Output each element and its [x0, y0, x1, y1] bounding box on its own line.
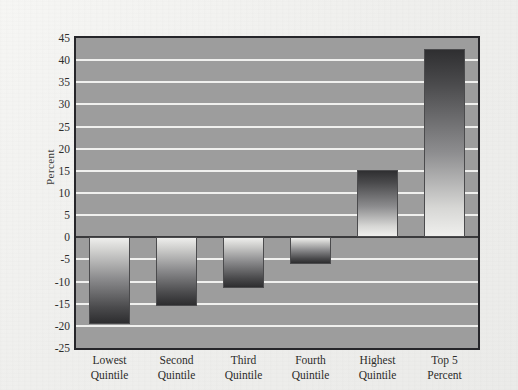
- x-tick-label-line: Percent: [411, 368, 478, 383]
- x-tick-label-line: Quintile: [76, 368, 143, 383]
- y-tick-label: 35: [42, 76, 70, 88]
- x-tick-label: LowestQuintile: [76, 353, 143, 383]
- bar: [223, 237, 263, 288]
- y-tick-label: -10: [42, 276, 70, 288]
- y-tick-label: 45: [42, 32, 70, 44]
- figure-root: Percent 454035302520151050-5-10-15-20-25…: [0, 0, 518, 390]
- bar: [89, 237, 129, 323]
- plot-area: [74, 36, 480, 350]
- x-tick-label: Top 5Percent: [411, 353, 478, 383]
- bar-series: [76, 38, 478, 348]
- x-tick-label: FourthQuintile: [277, 353, 344, 383]
- x-tick-label-line: Quintile: [143, 368, 210, 383]
- y-tick-label: 20: [42, 143, 70, 155]
- x-tick-label-line: Top 5: [411, 353, 478, 368]
- x-tick-label-line: Quintile: [277, 368, 344, 383]
- y-tick-label: -15: [42, 298, 70, 310]
- x-axis-category-labels: LowestQuintileSecondQuintileThirdQuintil…: [74, 353, 480, 389]
- x-tick-label: SecondQuintile: [143, 353, 210, 383]
- bar: [290, 237, 330, 264]
- x-tick-label-line: Lowest: [76, 353, 143, 368]
- x-tick-label: HighestQuintile: [344, 353, 411, 383]
- y-tick-label: -20: [42, 320, 70, 332]
- y-tick-label: 5: [42, 209, 70, 221]
- y-tick-label: 40: [42, 54, 70, 66]
- bar: [156, 237, 196, 306]
- bar: [357, 170, 397, 238]
- x-tick-label-line: Fourth: [277, 353, 344, 368]
- y-tick-label: -5: [42, 253, 70, 265]
- y-tick-label: 0: [42, 231, 70, 243]
- y-tick-label: 15: [42, 165, 70, 177]
- x-tick-label-line: Third: [210, 353, 277, 368]
- x-tick-label-line: Quintile: [210, 368, 277, 383]
- x-tick-label-line: Quintile: [344, 368, 411, 383]
- y-tick-label: 10: [42, 187, 70, 199]
- x-tick-label-line: Highest: [344, 353, 411, 368]
- x-tick-label: ThirdQuintile: [210, 353, 277, 383]
- y-axis-tick-labels: 454035302520151050-5-10-15-20-25: [42, 36, 70, 350]
- y-tick-label: 25: [42, 121, 70, 133]
- y-tick-label: 30: [42, 98, 70, 110]
- bar: [424, 49, 464, 237]
- y-tick-label: -25: [42, 342, 70, 354]
- x-tick-label-line: Second: [143, 353, 210, 368]
- plot-inner: [76, 38, 478, 348]
